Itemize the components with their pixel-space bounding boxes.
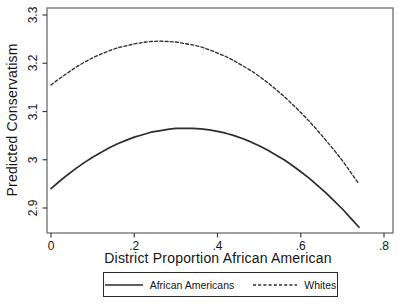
y-tick-label-1: 3 — [26, 156, 40, 163]
y-axis-title: Predicted Conservatism — [4, 43, 20, 196]
chart-figure: Predicted Conservatism District Proporti… — [0, 0, 400, 304]
y-tick-label-4: 3.3 — [26, 7, 40, 24]
x-tick-label-0: 0 — [48, 239, 55, 253]
legend: African Americans Whites — [103, 272, 338, 297]
x-tick-label-3: .6 — [296, 239, 306, 253]
y-tick-label-3: 3.2 — [26, 55, 40, 72]
x-tick-label-4: .8 — [379, 239, 389, 253]
x-tick-label-2: .4 — [212, 239, 222, 253]
legend-label-african-americans: African Americans — [150, 279, 235, 291]
y-tick-label-0: 2.9 — [26, 200, 40, 217]
y-tick-label-2: 3.1 — [26, 103, 40, 120]
legend-label-whites: Whites — [304, 279, 336, 291]
x-tick-label-1: .2 — [129, 239, 139, 253]
series-line-whites — [51, 41, 359, 184]
series-line-african-americans — [51, 128, 359, 227]
legend-solid-line-swatch — [105, 282, 143, 288]
legend-dashed-line-swatch — [253, 282, 297, 288]
plot-border — [47, 8, 393, 233]
